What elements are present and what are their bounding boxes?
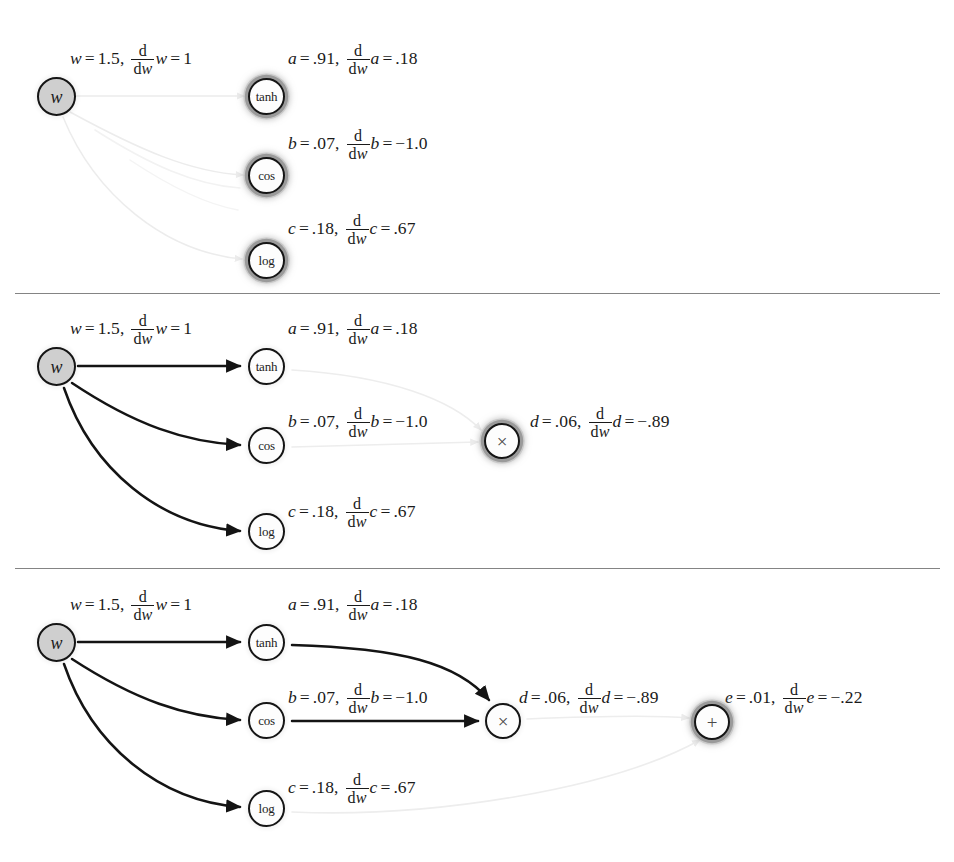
graph-edges-layer: [0, 0, 954, 862]
multiply-icon: ×: [497, 432, 508, 451]
node-tanh-panel-3[interactable]: tanh: [248, 624, 285, 661]
node-log-label: log: [258, 802, 274, 815]
label-a-panel-1: a=.91,ddwa=.18: [288, 41, 418, 76]
label-b-panel-1: b=.07,ddwb=−1.0: [288, 126, 428, 161]
node-w-label: w: [51, 88, 63, 106]
node-w-panel-1[interactable]: w: [37, 77, 76, 116]
label-a-panel-2: a=.91,ddwa=.18: [288, 311, 418, 346]
edge-w-to-log-ghost: [63, 117, 242, 259]
figure-root: w=1.5,ddww=1 a=.91,ddwa=.18 b=.07,ddwb=−…: [0, 0, 954, 862]
node-log-panel-2[interactable]: log: [248, 513, 285, 550]
node-w-panel-3[interactable]: w: [37, 623, 76, 662]
plus-icon: +: [707, 713, 718, 732]
label-d-panel-3: d=.06,ddwd=−.89: [519, 680, 659, 715]
node-add-panel-3[interactable]: +: [694, 704, 730, 740]
node-cos-label: cos: [258, 169, 275, 182]
edge-cos-to-mul-ghost: [292, 442, 478, 447]
panel-separator-1: [15, 293, 940, 294]
node-multiply-panel-2[interactable]: ×: [484, 423, 520, 459]
label-b-panel-2: b=.07,ddwb=−1.0: [288, 404, 428, 439]
node-cos-panel-2[interactable]: cos: [248, 427, 285, 464]
label-d-panel-2: d=.06,ddwd=−.89: [530, 404, 670, 439]
edge-w-to-log: [64, 388, 240, 531]
node-w-label: w: [51, 358, 63, 376]
edge-w-to-log-p3: [64, 664, 240, 807]
label-w-panel-1: w=1.5,ddww=1: [70, 41, 192, 76]
panel-separator-2: [15, 568, 940, 569]
edge-w-to-cos: [72, 383, 240, 445]
node-tanh-panel-1[interactable]: tanh: [248, 78, 285, 115]
node-tanh-label: tanh: [256, 90, 278, 103]
node-w-panel-2[interactable]: w: [37, 347, 76, 386]
node-tanh-label: tanh: [256, 636, 278, 649]
label-c-panel-1: c=.18,ddwc=.67: [288, 211, 416, 246]
label-w-panel-3: w=1.5,ddww=1: [70, 587, 192, 622]
label-c-panel-2: c=.18,ddwc=.67: [288, 494, 416, 529]
node-cos-label: cos: [258, 439, 275, 452]
node-tanh-panel-2[interactable]: tanh: [248, 348, 285, 385]
label-c-panel-3: c=.18,ddwc=.67: [288, 770, 416, 805]
node-tanh-label: tanh: [256, 360, 278, 373]
node-cos-label: cos: [258, 714, 275, 727]
edge-w-to-cos-p3: [72, 659, 240, 720]
panel-2-edges-solid: [64, 366, 240, 531]
panel-1-edges: [63, 96, 244, 259]
node-multiply-panel-3[interactable]: ×: [485, 703, 521, 739]
label-a-panel-3: a=.91,ddwa=.18: [288, 587, 418, 622]
edge-w-to-cos-ghost: [70, 112, 243, 175]
label-e-panel-3: e=.01,ddwe=−.22: [725, 680, 863, 715]
edge-mul-to-add-ghost: [527, 716, 689, 719]
node-log-label: log: [258, 254, 274, 267]
label-w-panel-2: w=1.5,ddww=1: [70, 311, 192, 346]
label-b-panel-3: b=.07,ddwb=−1.0: [288, 680, 428, 715]
node-w-label: w: [51, 634, 63, 652]
edge-ghost-stray-2: [130, 160, 238, 210]
multiply-icon: ×: [498, 712, 509, 731]
node-log-panel-1[interactable]: log: [248, 242, 285, 279]
node-log-panel-3[interactable]: log: [248, 790, 285, 827]
node-log-label: log: [258, 525, 274, 538]
node-cos-panel-1[interactable]: cos: [248, 157, 285, 194]
node-cos-panel-3[interactable]: cos: [248, 702, 285, 739]
